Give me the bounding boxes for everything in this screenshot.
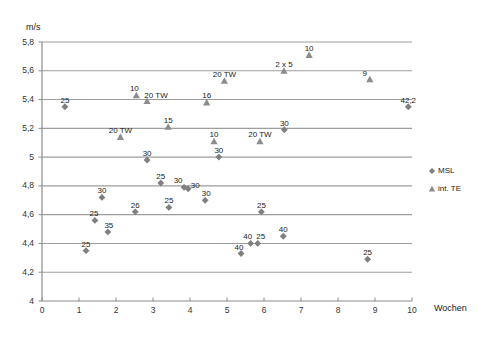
y-tick-label: 5,2: [6, 123, 34, 133]
data-point-label: 20 TW: [240, 130, 280, 139]
data-point-label: 16: [187, 91, 227, 100]
data-point-label: 10: [289, 44, 329, 53]
y-tick-label: 5,8: [6, 37, 34, 47]
data-point-label: 20 TW: [100, 126, 140, 135]
data-point-label: 30: [186, 189, 226, 198]
x-tick-label: 6: [249, 305, 279, 315]
data-point-label: 10: [194, 130, 234, 139]
legend-entry-label: MSL: [438, 166, 454, 175]
legend-marker-diamond: [429, 168, 435, 174]
data-point-label: 35: [89, 221, 129, 230]
y-tick-label: 5,4: [6, 94, 34, 104]
x-tick-label: 7: [286, 305, 316, 315]
data-point-label: 20 TW: [136, 91, 176, 100]
legend-entry: int. TE: [438, 184, 461, 193]
y-axis-unit-label: m/s: [26, 22, 41, 32]
x-tick-label: 10: [397, 305, 427, 315]
scatter-chart: m/s Wochen 44,24,44,64,855,25,45,65,8 01…: [0, 0, 491, 341]
data-point-label: 25: [74, 209, 114, 218]
data-point-label: 42,2: [388, 96, 428, 105]
data-point-label: 40: [263, 225, 303, 234]
data-point-label: 25: [149, 196, 189, 205]
y-tick-label: 5,6: [6, 65, 34, 75]
data-point-label: 15: [148, 116, 188, 125]
data-point-label: 25: [241, 201, 281, 210]
y-tick-label: 4,2: [6, 267, 34, 277]
x-tick-label: 8: [323, 305, 353, 315]
data-point-label: 2 x 5: [264, 60, 304, 69]
data-point-label: 30: [127, 149, 167, 158]
y-tick-label: 5: [6, 152, 34, 162]
data-point-label: 25: [66, 240, 106, 249]
data-point-label: 9: [345, 69, 385, 78]
data-point-label: 20 TW: [204, 70, 244, 79]
data-point-label: 25: [45, 96, 85, 105]
y-tick-label: 4: [6, 296, 34, 306]
x-axis-unit-label: Wochen: [434, 303, 467, 313]
x-tick-label: 0: [27, 305, 57, 315]
x-tick-label: 1: [64, 305, 94, 315]
data-point-label: 30: [82, 186, 122, 195]
x-tick-label: 2: [101, 305, 131, 315]
data-point-label: 30: [264, 119, 304, 128]
x-tick-label: 9: [360, 305, 390, 315]
plot-canvas: [0, 0, 491, 341]
x-tick-label: 4: [175, 305, 205, 315]
legend-marker-triangle: [429, 186, 435, 192]
legend-entry: MSL: [438, 166, 454, 175]
legend-entry-label: int. TE: [438, 184, 461, 193]
data-point-label: 40: [219, 243, 259, 252]
y-tick-label: 4,6: [6, 209, 34, 219]
y-tick-label: 4,4: [6, 238, 34, 248]
x-tick-label: 3: [138, 305, 168, 315]
axis-lines: [42, 42, 412, 301]
x-tick-label: 5: [212, 305, 242, 315]
legend-markers: [429, 168, 435, 192]
data-point-label: 25: [348, 248, 388, 257]
y-tick-label: 4,8: [6, 180, 34, 190]
data-point-label: 30: [199, 146, 239, 155]
